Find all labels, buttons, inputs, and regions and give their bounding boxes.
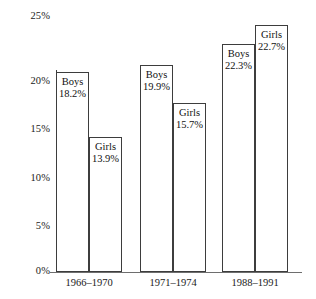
bar-series-value: 22.7% <box>256 41 287 53</box>
bar-series-name: Girls <box>90 141 121 153</box>
bar-label-1988-1991-boys: Boys 22.3% <box>223 48 254 72</box>
plot-area: Boys 18.2% Girls 13.9% Boys 19.9% Girls … <box>0 0 316 299</box>
bar-series-value: 22.3% <box>223 60 254 72</box>
bar-series-name: Boys <box>141 69 172 81</box>
x-tick-label-1971-1974: 1971–1974 <box>140 277 206 289</box>
bar-series-value: 15.7% <box>174 119 205 131</box>
bar-series-value: 19.9% <box>141 81 172 93</box>
bar-series-name: Boys <box>57 76 88 88</box>
bar-1971-1974-boys: Boys 19.9% <box>140 65 173 272</box>
bar-label-1971-1974-girls: Girls 15.7% <box>174 107 205 131</box>
bar-label-1971-1974-boys: Boys 19.9% <box>141 69 172 93</box>
bar-series-value: 13.9% <box>90 153 121 165</box>
bar-chart: 25% 20% 15% 10% 5% 0% Boys 18.2% Girls 1… <box>0 0 316 299</box>
bar-label-1988-1991-girls: Girls 22.7% <box>256 29 287 53</box>
bar-series-name: Girls <box>174 107 205 119</box>
bar-series-name: Girls <box>256 29 287 41</box>
bar-series-name: Boys <box>223 48 254 60</box>
bar-1988-1991-boys: Boys 22.3% <box>222 44 255 272</box>
bar-1971-1974-girls: Girls 15.7% <box>173 103 206 272</box>
bar-series-value: 18.2% <box>57 88 88 100</box>
bar-1988-1991-girls: Girls 22.7% <box>255 25 288 272</box>
bar-label-1966-1970-girls: Girls 13.9% <box>90 141 121 165</box>
bar-1966-1970-girls: Girls 13.9% <box>89 137 122 272</box>
x-tick-label-1966-1970: 1966–1970 <box>56 277 122 289</box>
bar-1966-1970-boys: Boys 18.2% <box>56 72 89 272</box>
x-tick-label-1988-1991: 1988–1991 <box>222 277 288 289</box>
bar-label-1966-1970-boys: Boys 18.2% <box>57 76 88 100</box>
